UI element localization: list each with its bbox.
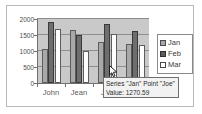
bar-mar-jean[interactable] <box>83 51 89 83</box>
gridline <box>37 18 149 19</box>
bar-jan-jean[interactable] <box>70 30 76 83</box>
feb-swatch-icon <box>160 51 166 57</box>
legend-item-label: Feb <box>168 49 181 58</box>
tooltip-series-point: Series "Jan" Point "Joe" <box>106 79 176 88</box>
y-tick-label: 500 <box>23 64 34 71</box>
x-tick-mark <box>37 84 38 87</box>
legend-item-jan[interactable]: Jan <box>160 37 190 48</box>
legend-item-label: Mar <box>168 60 181 69</box>
legend-item-feb[interactable]: Feb <box>160 48 190 59</box>
bar-feb-joan[interactable] <box>132 31 138 83</box>
y-tick-label: 2000 <box>20 16 34 23</box>
y-tick-mark <box>34 51 37 52</box>
x-tick-label: John <box>43 88 59 97</box>
chart-legend: JanFebMar <box>157 34 193 74</box>
y-tick-label: 1000 <box>20 48 34 55</box>
chart-window: 0500100015002000 JohnJeanJoeJoan JanFebM… <box>6 5 194 107</box>
legend-item-mar[interactable]: Mar <box>160 59 190 70</box>
y-tick-mark <box>34 67 37 68</box>
bar-feb-jean[interactable] <box>76 35 82 83</box>
bar-jan-john[interactable] <box>42 49 48 83</box>
x-tick-label: Jean <box>71 88 87 97</box>
plot-area <box>37 19 149 83</box>
y-tick-mark <box>34 19 37 20</box>
legend-item-label: Jan <box>168 38 180 47</box>
y-axis-line <box>37 19 38 84</box>
jan-swatch-icon <box>160 40 166 46</box>
tooltip-value: Value: 1270.59 <box>106 88 176 97</box>
x-tick-mark <box>93 84 94 87</box>
bar-mar-john[interactable] <box>55 29 61 83</box>
y-tick-label: 1500 <box>20 32 34 39</box>
mar-swatch-icon <box>160 62 166 68</box>
bar-feb-john[interactable] <box>48 22 54 83</box>
y-axis-labels: 0500100015002000 <box>7 6 34 106</box>
mouse-pointer-icon <box>109 64 118 77</box>
x-tick-mark <box>65 84 66 87</box>
data-point-tooltip: Series "Jan" Point "Joe" Value: 1270.59 <box>103 77 179 98</box>
y-tick-mark <box>34 35 37 36</box>
